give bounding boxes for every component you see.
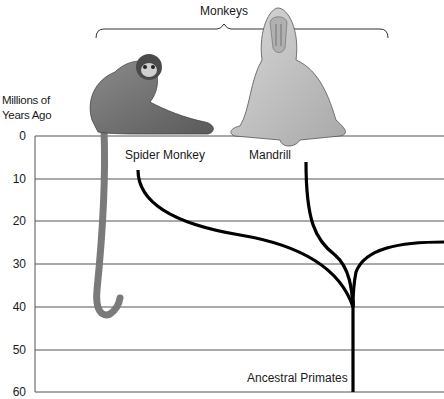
monkeys-bracket [96,24,388,38]
label-mandrill: Mandrill [249,148,291,162]
label-spider-monkey: Spider Monkey [125,148,205,162]
branch-mandrill [306,162,353,307]
phylogeny-branches [138,162,444,392]
phylogeny-diagram [0,0,444,399]
label-ancestral-primates: Ancestral Primates [247,371,348,385]
branch-unlabeled [353,242,444,307]
spider-monkey-illustration [90,54,213,315]
